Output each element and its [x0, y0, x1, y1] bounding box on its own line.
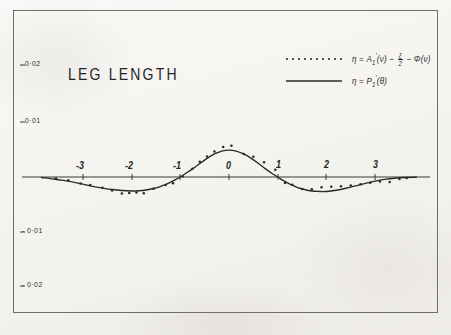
data-point: [222, 146, 225, 149]
legend1-term3-arg: (ν): [421, 54, 431, 64]
legend-entry-observed-equation: η = A1′(ν) − ξ 2 − Φ(ν): [352, 52, 431, 67]
data-point: [230, 144, 233, 147]
x-tick-label-0: 0: [226, 160, 231, 171]
data-point: [398, 178, 401, 181]
data-point: [152, 188, 155, 191]
data-point: [350, 184, 353, 187]
legend2-term1-sub: 1: [372, 81, 376, 88]
data-point: [213, 150, 216, 153]
legend1-fraction: ξ 2: [398, 52, 404, 67]
legend-entry-theoretical-equation: η = P1′(θ): [352, 74, 387, 88]
data-point: [128, 192, 131, 195]
x-tick-label-neg3: -3: [76, 160, 84, 171]
data-point: [291, 184, 294, 187]
legend1-frac-numerator: ξ: [398, 52, 404, 60]
data-point: [369, 181, 372, 184]
data-point: [406, 177, 409, 180]
figure-root: LEG LENGTH 0·02 0·01 - 0·01 - 0·02 -3 -2…: [0, 0, 451, 335]
data-point: [206, 155, 209, 158]
x-tick-label-1: 1: [276, 159, 281, 170]
x-tick-label-neg2: -2: [125, 160, 133, 171]
data-point: [379, 180, 382, 183]
legend1-minus-2: −: [407, 54, 412, 64]
data-point: [320, 186, 323, 189]
data-point: [121, 192, 124, 195]
data-point: [135, 191, 138, 194]
y-tick-label-neg-0-01: - 0·01: [22, 227, 43, 235]
data-point: [284, 182, 287, 185]
x-tick-label-2: 2: [324, 159, 329, 170]
data-point: [191, 167, 194, 170]
data-point: [340, 185, 343, 188]
y-tick-label-0-02: 0·02: [25, 60, 41, 68]
legend2-term1-arg: (θ): [377, 76, 387, 86]
legend2-equals: =: [359, 76, 364, 86]
legend-dotted-marker: [286, 58, 342, 60]
data-point: [172, 182, 175, 185]
legend1-term1-arg: (ν): [377, 54, 387, 64]
legend1-minus-1: −: [389, 54, 394, 64]
legend1-frac-denominator: 2: [398, 60, 404, 67]
data-point: [164, 184, 167, 187]
data-point: [89, 184, 92, 187]
data-point: [199, 161, 202, 164]
legend1-eta: η: [352, 54, 357, 64]
data-point: [330, 186, 333, 189]
data-point: [388, 181, 391, 184]
data-point: [263, 161, 266, 164]
data-point: [301, 188, 304, 191]
y-axis-ticks: [20, 65, 25, 286]
data-point: [67, 179, 70, 182]
data-point: [111, 189, 114, 192]
data-point: [55, 177, 58, 180]
data-point: [143, 192, 146, 195]
legend1-term3-base: Φ: [414, 54, 421, 64]
x-tick-label-neg1: -1: [173, 160, 181, 171]
data-point: [242, 153, 245, 156]
data-point: [311, 188, 314, 191]
data-point: [79, 182, 82, 185]
chart-title: LEG LENGTH: [68, 65, 179, 84]
data-point: [101, 187, 104, 190]
data-point: [181, 175, 184, 178]
legend1-term1-sub: 1: [372, 59, 376, 66]
observed-data-points: [55, 144, 408, 194]
legend2-eta: η: [352, 76, 357, 86]
data-point: [252, 155, 255, 158]
x-tick-label-3: 3: [373, 159, 378, 170]
data-point: [359, 183, 362, 186]
y-tick-label-neg-0-02: - 0·02: [22, 281, 43, 289]
y-tick-label-0-01: 0·01: [25, 117, 41, 125]
legend1-equals: =: [359, 54, 364, 64]
